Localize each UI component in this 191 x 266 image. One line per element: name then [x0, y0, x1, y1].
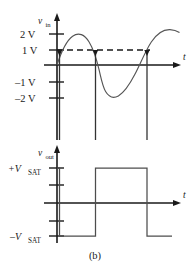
- top-y-axis-label: v: [38, 16, 43, 26]
- bottom-y-axis-arrow-icon: [54, 145, 60, 153]
- top-x-axis-label: t: [183, 52, 186, 62]
- top-tick-label-neg2v: –2 V: [14, 93, 36, 104]
- bottom-x-axis-label: t: [183, 190, 186, 200]
- bottom-tick-label-negative-vsat-subscript: SAT: [28, 237, 41, 245]
- top-tick-label-2v: 2 V: [20, 29, 36, 40]
- bottom-y-axis-label-subscript: out: [46, 153, 55, 160]
- bottom-x-axis-arrow-icon: [173, 200, 181, 206]
- top-y-axis-arrow-icon: [54, 13, 60, 21]
- top-plot-group: v in t 2 V 1 V –1 V –2 V: [14, 13, 186, 140]
- figure-caption: (b): [89, 250, 102, 262]
- bottom-tick-label-negative-vsat: –V: [9, 231, 23, 242]
- output-square-wave: [57, 168, 172, 236]
- top-tick-label-1v: 1 V: [22, 45, 38, 56]
- bottom-y-axis-label: v: [38, 148, 43, 158]
- figure-container: v in t 2 V 1 V –1 V –2 V: [0, 0, 191, 266]
- waveform-figure: v in t 2 V 1 V –1 V –2 V: [0, 0, 191, 266]
- bottom-tick-label-positive-vsat: +V: [8, 163, 23, 174]
- top-x-axis-arrow-icon: [173, 62, 181, 68]
- bottom-plot-group: v out t +V SAT –V SAT: [8, 145, 186, 245]
- input-sine-curve: [57, 30, 180, 98]
- bottom-tick-label-positive-vsat-subscript: SAT: [28, 169, 41, 177]
- top-y-axis-label-subscript: in: [46, 21, 52, 28]
- top-tick-label-neg1v: –1 V: [14, 77, 36, 88]
